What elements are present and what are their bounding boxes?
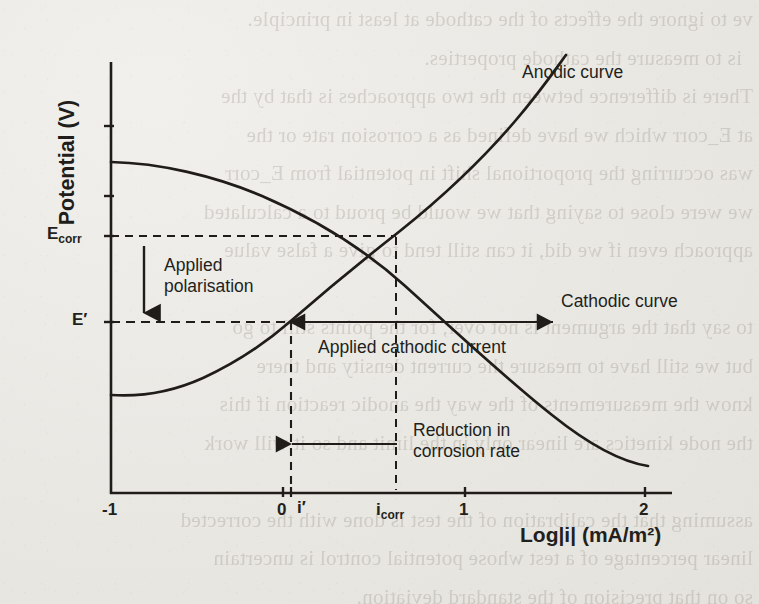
x-tick-label-minus1: -1 <box>102 500 117 520</box>
cathodic-curve-path <box>111 162 648 466</box>
x-axis-title: Log|i| (mA/m²) <box>520 523 661 547</box>
x-tick-label-iprime: i′ <box>297 498 306 518</box>
reduction-in-corrosion-rate-label: Reduction in corrosion rate <box>413 420 520 462</box>
y-axis-ticks <box>104 126 114 322</box>
y-tick-label-ecorr: Ecorr <box>47 224 82 246</box>
scanned-page: ve to ignore the effects of the cathode … <box>0 0 759 604</box>
applied-polarisation-label: Applied polarisation <box>164 255 254 297</box>
anodic-curve-label: Anodic curve <box>522 62 623 83</box>
icorr-subscript: corr <box>381 508 404 522</box>
x-tick-label-icorr: icorr <box>376 500 404 522</box>
x-tick-label-0: 0 <box>277 500 286 520</box>
x-tick-label-2: 2 <box>639 500 648 520</box>
ecorr-base: E <box>47 224 58 243</box>
x-tick-label-1: 1 <box>459 500 468 520</box>
ecorr-subscript: corr <box>58 232 81 246</box>
applied-cathodic-current-label: Applied cathodic current <box>318 337 506 358</box>
y-tick-label-eprime: E′ <box>72 310 87 330</box>
cathodic-curve-label: Cathodic curve <box>561 291 678 312</box>
